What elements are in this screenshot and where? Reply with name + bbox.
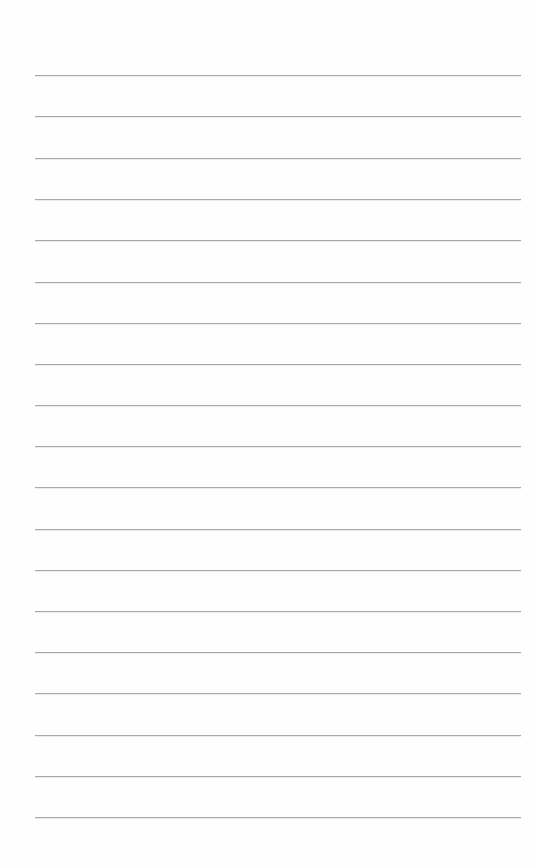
ruled-line bbox=[35, 693, 521, 694]
ruled-line bbox=[35, 282, 521, 283]
ruled-line bbox=[35, 75, 521, 76]
ruled-line bbox=[35, 405, 521, 406]
ruled-line bbox=[35, 323, 521, 324]
ruled-line bbox=[35, 487, 521, 488]
ruled-line bbox=[35, 570, 521, 571]
ruled-line bbox=[35, 652, 521, 653]
ruled-line bbox=[35, 199, 521, 200]
ruled-line bbox=[35, 158, 521, 159]
ruled-line bbox=[35, 817, 521, 818]
ruled-line bbox=[35, 446, 521, 447]
ruled-line bbox=[35, 735, 521, 736]
ruled-line bbox=[35, 611, 521, 612]
ruled-line bbox=[35, 116, 521, 117]
lined-paper-page bbox=[0, 0, 535, 867]
ruled-line bbox=[35, 240, 521, 241]
ruled-line bbox=[35, 529, 521, 530]
ruled-line bbox=[35, 364, 521, 365]
ruled-line bbox=[35, 776, 521, 777]
